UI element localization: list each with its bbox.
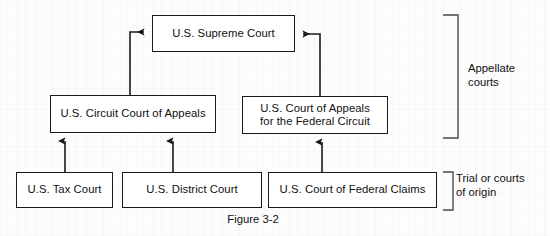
bracket-appellate-courts: [443, 15, 458, 138]
group-label-appellate-courts: Appellate courts: [468, 62, 546, 89]
node-tax-court: U.S. Tax Court: [16, 172, 113, 208]
node-supreme-court-label: U.S. Supreme Court: [172, 27, 275, 41]
node-circuit-court-of-appeals: U.S. Circuit Court of Appeals: [50, 95, 216, 133]
figure-container: U.S. Supreme Court U.S. Circuit Court of…: [0, 0, 550, 236]
node-circuit-court-of-appeals-label: U.S. Circuit Court of Appeals: [60, 107, 205, 121]
group-label-trial-courts: Trial or courts of origin: [456, 172, 550, 199]
node-tax-court-label: U.S. Tax Court: [28, 183, 102, 197]
node-court-of-appeals-federal-circuit-label: U.S. Court of Appeals for the Federal Ci…: [260, 102, 370, 129]
node-court-of-federal-claims-label: U.S. Court of Federal Claims: [280, 183, 426, 197]
node-court-of-appeals-federal-circuit: U.S. Court of Appeals for the Federal Ci…: [242, 96, 388, 134]
node-court-of-federal-claims: U.S. Court of Federal Claims: [268, 172, 437, 208]
node-supreme-court: U.S. Supreme Court: [152, 15, 295, 52]
figure-caption: Figure 3-2: [0, 213, 506, 226]
bracket-trial-courts: [443, 172, 453, 210]
edge-federal-circuit-to-supreme-court: [303, 34, 320, 96]
edge-circuit-appeals-to-supreme-court: [130, 32, 144, 95]
node-district-court-label: U.S. District Court: [146, 183, 237, 197]
node-district-court: U.S. District Court: [122, 172, 262, 208]
